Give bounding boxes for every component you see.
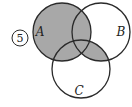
set-a-label: A bbox=[35, 25, 45, 39]
problem-number: 5 bbox=[17, 32, 24, 45]
set-c-label: C bbox=[74, 84, 83, 98]
venn-diagram: 5 A B C bbox=[0, 0, 132, 107]
set-b-label: B bbox=[116, 25, 126, 39]
